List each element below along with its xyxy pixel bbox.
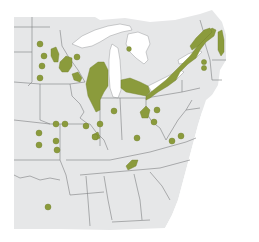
range-patch [151, 119, 157, 125]
range-patch [45, 204, 51, 210]
range-patch [37, 75, 43, 81]
range-patch [62, 121, 68, 127]
range-patch [74, 54, 80, 60]
range-patch [41, 53, 47, 59]
range-patch [53, 138, 59, 144]
range-patch [201, 59, 206, 64]
range-patch [36, 130, 42, 136]
range-patch [127, 47, 132, 52]
range-patch [36, 142, 42, 148]
range-patch [134, 135, 140, 141]
range-patch [83, 123, 89, 129]
range-patch [201, 65, 206, 70]
range-patch [97, 121, 103, 127]
range-patch [178, 133, 184, 139]
range-patch [154, 107, 160, 113]
range-patch [92, 134, 98, 140]
range-patch [169, 138, 175, 144]
range-patch [39, 63, 45, 69]
range-patch [53, 121, 59, 127]
range-patch [54, 147, 60, 153]
range-patch [111, 108, 117, 114]
range-map [0, 0, 259, 242]
range-patch [37, 41, 43, 47]
